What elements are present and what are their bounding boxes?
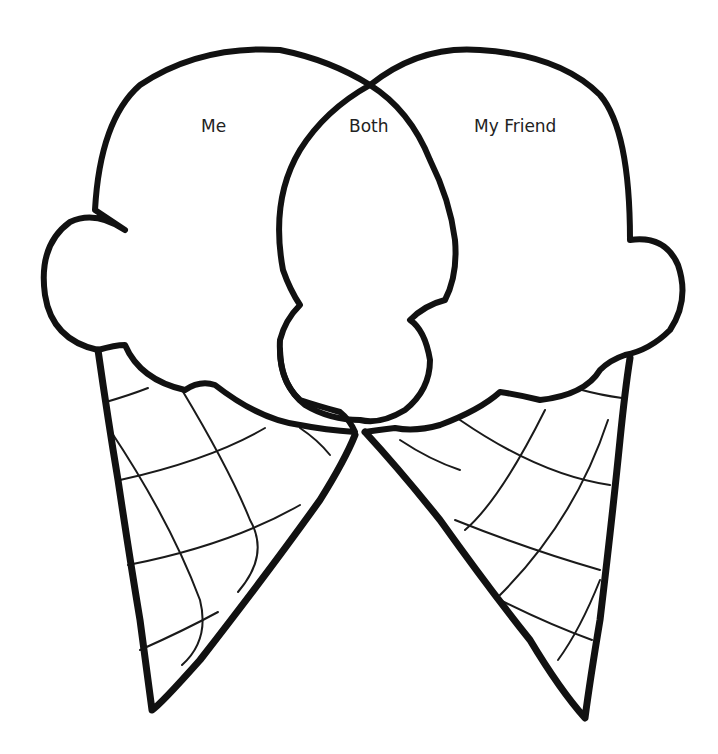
right-scoop-outline (365, 49, 683, 432)
label-me: Me (201, 116, 226, 136)
label-both: Both (349, 116, 389, 136)
label-my-friend: My Friend (474, 116, 556, 136)
ice-cream-venn-drawing (0, 0, 718, 754)
left-scoop-outline (44, 49, 370, 432)
